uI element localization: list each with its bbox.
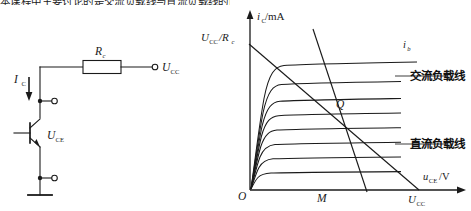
label-uce-sub: CE [56, 136, 64, 143]
label-rc: R [94, 45, 102, 57]
circuit-diagram-panel: I C R c U CC U CE [0, 0, 195, 211]
annotation-ucc-intercept: U CC [408, 193, 426, 207]
m-point-label: M [316, 192, 328, 204]
y-axis-label: i C /mA [257, 10, 285, 24]
transistor-collector-lead [30, 119, 40, 128]
terminal-output-top [52, 98, 58, 104]
ib-curve-5 [251, 113, 401, 189]
node-dot-emitter [38, 176, 42, 180]
transistor-emitter-arrow [35, 139, 41, 147]
label-ic: I [13, 73, 19, 85]
ac-load-line-label: 交流负载线 [410, 69, 466, 83]
x-axis-label-sub: CE [429, 177, 437, 184]
label-ic-sub: C [21, 80, 26, 87]
node-dot-collector [38, 99, 42, 103]
terminal-ucc [152, 64, 158, 70]
dc-load-line-label: 直流负载线 [410, 137, 466, 151]
origin-label: O [238, 190, 247, 202]
ac-load-line [313, 29, 367, 192]
label-rc-sub: c [103, 52, 106, 59]
ucc-rc-sub: CC [209, 38, 218, 45]
x-axis-label: u CE /V [423, 171, 450, 184]
annotation-ucc-over-rc: U CC /R c [201, 31, 235, 45]
x-axis-arrow [457, 187, 466, 194]
x-axis-label-unit: /V [439, 171, 450, 182]
x-axis-label-main: u [423, 171, 428, 182]
current-arrow-ic [26, 77, 33, 101]
figure-root: 本课程中主要讨论的是交流负载线与直流负载线的区别和联系 [0, 0, 471, 211]
annotation-ib: i b [403, 39, 411, 52]
ib-curve-3 [251, 142, 401, 189]
ib-curve-1 [251, 172, 401, 189]
resistor-Rc [83, 61, 121, 74]
ib-main: i [403, 39, 406, 50]
y-axis-arrow [247, 10, 254, 19]
terminal-output-bottom [52, 175, 58, 181]
label-ucc-sub: CC [171, 68, 180, 75]
ucc-rc-tail-sub: c [232, 38, 235, 45]
y-axis-label-unit: /mA [265, 10, 285, 22]
ucc-intercept-sub: CC [416, 200, 425, 207]
ucc-rc-tail: /R [218, 31, 229, 43]
y-axis-label-main: i [257, 10, 260, 22]
ib-curve-8 [251, 62, 417, 189]
ib-sub: b [407, 45, 411, 52]
output-characteristics-chart: i C /mA u CE /V O U CC /R c i b [195, 0, 471, 211]
q-point-label: Q [336, 98, 345, 110]
ib-curve-family [251, 62, 417, 189]
